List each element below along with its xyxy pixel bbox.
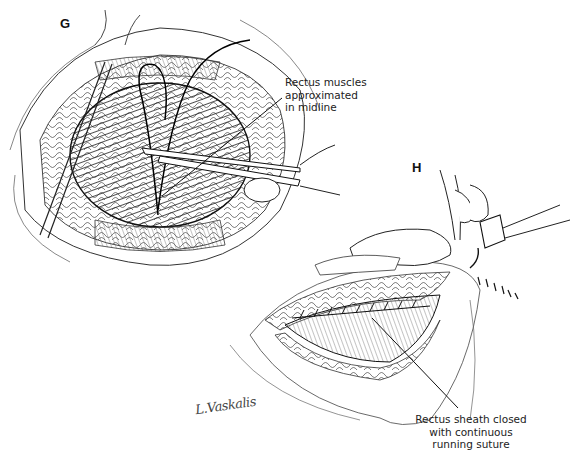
illustration-artwork [0, 0, 586, 462]
callout-rectus-muscles: Rectus muscles approximated in midline [285, 76, 367, 114]
panel-label-h: H [412, 160, 421, 175]
callout-g-line-3: in midline [285, 101, 367, 114]
callout-h-line-1: Rectus sheath closed [408, 413, 534, 426]
callout-rectus-sheath: Rectus sheath closed with continuous run… [408, 413, 534, 451]
surgical-illustration: G H Rectus muscles approximated in midli… [0, 0, 586, 462]
callout-h-line-2: with continuous [408, 426, 534, 439]
callout-g-line-2: approximated [285, 89, 367, 102]
panel-label-g: G [60, 16, 70, 31]
callout-h-line-3: running suture [408, 438, 534, 451]
panel-g-drawing [10, 10, 340, 265]
callout-g-line-1: Rectus muscles [285, 76, 367, 89]
